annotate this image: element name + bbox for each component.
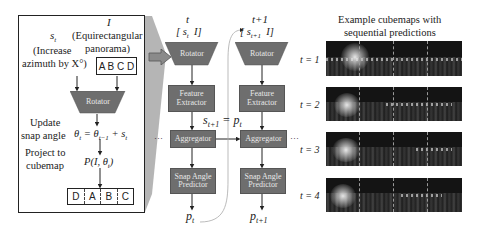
cubemap-face-1: D (68, 189, 85, 204)
row-label-3: t = 3 (300, 145, 320, 155)
cubemap-face-4: C (118, 189, 134, 204)
cubemap-strip-1 (326, 41, 462, 76)
update-label-1: Update (30, 118, 60, 129)
col2-feature-extractor: Feature Extractor (239, 85, 285, 112)
left-rotator-label: Rotator (70, 98, 126, 106)
feedback-equation: st+1 = pt (203, 114, 242, 129)
col1-output: pt (186, 210, 194, 225)
col2-aggregator: Aggregator (240, 130, 287, 148)
examples-title-1: Example cubemaps with (338, 15, 441, 26)
project-label-2: cubemap (26, 161, 64, 172)
row-label-1: t = 1 (300, 55, 320, 65)
update-equation: θt = θt−1 + st (74, 129, 127, 142)
col1-feature-extractor: Feature Extractor (168, 85, 215, 112)
col1-rotator-label: Rotator (165, 50, 219, 58)
cubemap-faces: D A B C (67, 188, 134, 205)
col2-rotator-label: Rotator (235, 50, 289, 58)
cubemap-strip-2 (326, 87, 462, 121)
cubemap-strip-4 (326, 178, 462, 212)
project-label-1: Project to (25, 148, 66, 159)
col2-snap-angle-predictor: Snap Angle Predictor (240, 168, 286, 194)
col2-output: pt+1 (250, 210, 268, 225)
update-label-2: snap angle (21, 131, 66, 142)
cubemap-face-3: B (101, 189, 118, 204)
cubemap-strip-3 (326, 132, 462, 166)
row-label-2: t = 2 (300, 100, 320, 110)
cubemap-face-2: A (85, 189, 102, 204)
ellipsis-right: ··· (290, 134, 299, 143)
ellipsis-left: ··· (154, 134, 163, 143)
col1-aggregator: Aggregator (170, 130, 216, 148)
examples-title-2: sequential predictions (344, 28, 436, 39)
row-label-4: t = 4 (300, 191, 320, 201)
col1-snap-angle-predictor: Snap Angle Predictor (170, 168, 216, 194)
project-equation: P(I, θt) (84, 157, 113, 170)
